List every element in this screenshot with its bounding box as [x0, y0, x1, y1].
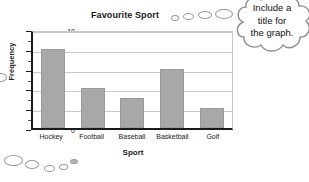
bar-cell [115, 32, 151, 128]
bar-cell [154, 32, 190, 128]
thought-bubble-dot [25, 160, 39, 169]
thought-bubble-dot [70, 159, 78, 164]
bar-cell [194, 32, 230, 128]
thought-bubble-dot [44, 165, 55, 172]
thought-bubble-dot [183, 13, 194, 20]
bar-cell [75, 32, 111, 128]
x-tick-label: Golf [206, 133, 219, 140]
callout-line-3: the graph. [236, 27, 308, 40]
bar-hockey [41, 49, 65, 128]
thought-bubble-dot [4, 155, 23, 166]
thought-bubble-dot [59, 164, 68, 170]
bar-cell [35, 32, 71, 128]
callout-line-2: title for [236, 15, 308, 28]
x-tick-label: Football [79, 133, 104, 140]
x-tick-label: Baseball [119, 133, 146, 140]
y-axis-label: Frequency [7, 32, 16, 92]
x-axis-label: Sport [78, 148, 188, 157]
bar-golf [200, 108, 224, 128]
thought-bubble-dot [171, 15, 179, 21]
x-tick-label: Basketball [156, 133, 188, 140]
x-tick-label: Hockey [40, 133, 63, 140]
bar-basketball [160, 69, 184, 128]
bar-football [81, 88, 105, 128]
bar-baseball [120, 98, 144, 128]
bar-series [33, 32, 232, 128]
plot-area [31, 31, 233, 130]
callout-line-1: Include a [236, 2, 308, 15]
thought-bubble-dot [198, 11, 212, 19]
callout-text: Include a title for the graph. [236, 2, 308, 40]
worksheet-page: Favourite Sport Frequency 0246810 Hockey… [0, 0, 309, 182]
y-tick-mark [26, 130, 31, 131]
